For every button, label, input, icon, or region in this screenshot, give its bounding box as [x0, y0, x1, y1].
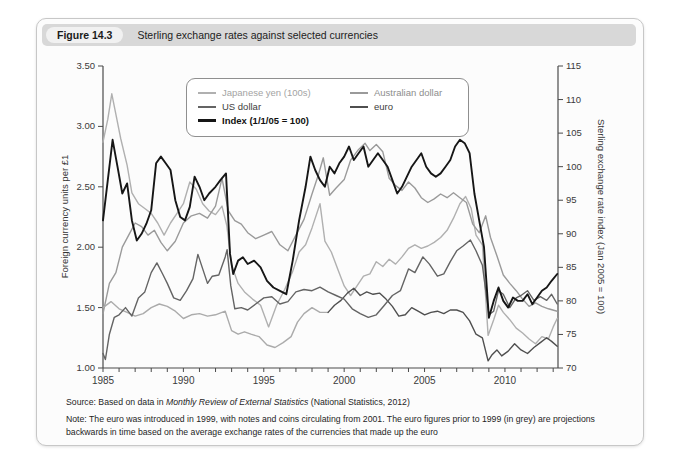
- svg-text:90: 90: [566, 228, 577, 239]
- svg-text:95: 95: [566, 194, 577, 205]
- svg-text:70: 70: [566, 362, 577, 373]
- svg-text:1995: 1995: [253, 375, 276, 386]
- svg-text:1.50: 1.50: [77, 302, 96, 313]
- svg-text:1990: 1990: [172, 375, 195, 386]
- legend-line-swatch: [198, 119, 216, 122]
- right-axis-label: Sterling exchange rate index (Jan 2005 =…: [596, 107, 607, 327]
- svg-text:1.00: 1.00: [77, 362, 96, 373]
- svg-text:115: 115: [566, 60, 581, 71]
- figure-header-bar: Figure 14.3 Sterling exchange rates agai…: [42, 24, 636, 46]
- svg-text:2.50: 2.50: [77, 181, 96, 192]
- legend-line-swatch: [350, 92, 368, 94]
- legend-line-swatch: [198, 92, 216, 94]
- legend-item-us-dollar: US dollar: [198, 100, 261, 113]
- legend-item-japanese-yen: Japanese yen (100s): [198, 86, 311, 99]
- figure-title: Sterling exchange rates against selected…: [137, 29, 377, 41]
- figure-badge: Figure 14.3: [46, 27, 123, 43]
- svg-text:1985: 1985: [92, 375, 115, 386]
- svg-text:2010: 2010: [494, 375, 517, 386]
- legend-label: Index (1/1/05 = 100): [222, 115, 309, 126]
- svg-text:85: 85: [566, 261, 577, 272]
- legend-item-euro: euro: [350, 100, 393, 113]
- legend-item-australian-dollar: Australian dollar: [350, 86, 442, 99]
- legend-item-index: Index (1/1/05 = 100): [198, 114, 309, 127]
- svg-text:110: 110: [566, 94, 581, 105]
- svg-text:3.50: 3.50: [77, 60, 96, 71]
- legend-label: Australian dollar: [374, 87, 442, 98]
- svg-text:2000: 2000: [333, 375, 356, 386]
- chart-legend: Japanese yen (100s) US dollar Index (1/1…: [186, 78, 469, 137]
- euro-note: Note: The euro was introduced in 1999, w…: [66, 413, 638, 440]
- svg-text:75: 75: [566, 328, 577, 339]
- source-note: Source: Based on data in Monthly Review …: [66, 397, 632, 407]
- legend-line-swatch: [350, 106, 368, 108]
- figure-page: Figure 14.3 Sterling exchange rates agai…: [0, 0, 676, 462]
- svg-text:2.00: 2.00: [77, 241, 96, 252]
- svg-text:80: 80: [566, 295, 577, 306]
- svg-text:100: 100: [566, 161, 582, 172]
- source-publication: Monthly Review of External Statistics: [166, 397, 308, 407]
- legend-label: euro: [374, 101, 393, 112]
- svg-text:105: 105: [566, 127, 582, 138]
- legend-line-swatch: [198, 106, 216, 108]
- legend-label: Japanese yen (100s): [222, 87, 311, 98]
- legend-label: US dollar: [222, 101, 261, 112]
- source-suffix: (National Statistics, 2012): [308, 397, 409, 407]
- svg-text:3.00: 3.00: [77, 120, 96, 131]
- source-prefix: Source: Based on data in: [66, 397, 166, 407]
- svg-text:2005: 2005: [413, 375, 436, 386]
- left-axis-label: Foreign currency units per £1: [59, 127, 70, 307]
